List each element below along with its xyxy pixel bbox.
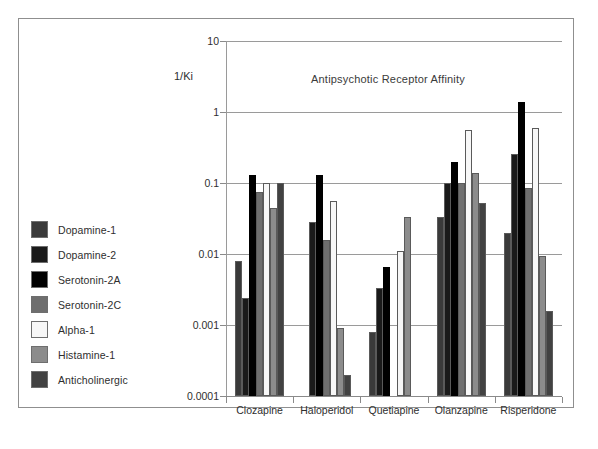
bar[interactable] (479, 203, 486, 396)
bar[interactable] (242, 298, 249, 396)
bar[interactable] (323, 240, 330, 396)
bar[interactable] (369, 332, 376, 396)
y-axis-label: 1/Ki (174, 70, 193, 82)
legend-item-label: Serotonin-2C (58, 299, 121, 311)
bar[interactable] (309, 222, 316, 396)
x-tick-mark (226, 397, 227, 403)
legend-item-label: Alpha-1 (58, 324, 95, 336)
y-tick-label: 1 (213, 106, 219, 118)
x-tick-mark (428, 397, 429, 403)
grid-and-bars: 1010.10.010.0010.0001 (226, 41, 562, 396)
bar[interactable] (383, 267, 390, 396)
legend-item: Histamine-1 (31, 342, 181, 367)
bar[interactable] (235, 261, 242, 396)
x-tick-mark (495, 397, 496, 403)
y-tick-label: 0.01 (199, 248, 219, 260)
x-tick-mark (293, 397, 294, 403)
bar[interactable] (539, 256, 546, 396)
x-category-label: Haloperidol (300, 404, 353, 416)
legend-item-label: Dopamine-2 (58, 249, 116, 261)
legend-item-label: Dopamine-1 (58, 224, 116, 236)
legend-item: Dopamine-2 (31, 242, 181, 267)
plot-area: 1/Ki Antipsychotic Receptor Affinity 101… (214, 32, 562, 403)
bar[interactable] (458, 183, 465, 396)
bar[interactable] (256, 192, 263, 396)
bar[interactable] (511, 154, 518, 396)
gridline (226, 396, 562, 397)
y-tick-label: 0.001 (193, 319, 219, 331)
legend-item: Dopamine-1 (31, 217, 181, 242)
legend-item-label: Histamine-1 (58, 349, 115, 361)
x-category-label: Risperidone (500, 404, 556, 416)
bar[interactable] (451, 162, 458, 396)
legend-swatch-icon (31, 296, 48, 313)
bar[interactable] (525, 188, 532, 396)
y-tick-label: 10 (207, 35, 219, 47)
x-category-label: Quetiapine (369, 404, 420, 416)
legend-item: Alpha-1 (31, 317, 181, 342)
bar[interactable] (532, 128, 539, 396)
bar-group (360, 41, 427, 396)
y-tick-label: 0.1 (204, 177, 219, 189)
bar[interactable] (465, 130, 472, 396)
bar-group (428, 41, 495, 396)
bar[interactable] (263, 183, 270, 396)
bar[interactable] (472, 173, 479, 396)
bar[interactable] (376, 288, 383, 396)
bar[interactable] (316, 175, 323, 396)
legend-swatch-icon (31, 371, 48, 388)
legend-swatch-icon (31, 246, 48, 263)
bar[interactable] (270, 208, 277, 396)
legend-item: Anticholinergic (31, 367, 181, 392)
bar[interactable] (518, 102, 525, 396)
bar[interactable] (404, 217, 411, 396)
figure-frame: Dopamine-1Dopamine-2Serotonin-2ASerotoni… (18, 18, 574, 408)
bar[interactable] (444, 183, 451, 396)
legend-item-label: Anticholinergic (58, 374, 128, 386)
bar[interactable] (249, 175, 256, 396)
legend-swatch-icon (31, 321, 48, 338)
bar[interactable] (277, 183, 284, 396)
bar[interactable] (397, 251, 404, 396)
bar[interactable] (504, 233, 511, 396)
legend-item-label: Serotonin-2A (58, 274, 121, 286)
bar[interactable] (337, 328, 344, 396)
bar-group (226, 41, 293, 396)
x-tick-mark (562, 397, 563, 403)
bar-group (293, 41, 360, 396)
bar[interactable] (546, 311, 553, 396)
bar[interactable] (344, 375, 351, 396)
legend-swatch-icon (31, 346, 48, 363)
legend-item: Serotonin-2A (31, 267, 181, 292)
x-category-label: Clozapine (236, 404, 283, 416)
x-tick-mark (360, 397, 361, 403)
bar[interactable] (437, 217, 444, 396)
legend-swatch-icon (31, 271, 48, 288)
chart-legend: Dopamine-1Dopamine-2Serotonin-2ASerotoni… (31, 217, 181, 392)
x-category-label: Olanzapine (435, 404, 488, 416)
bar-group (495, 41, 562, 396)
bar[interactable] (330, 201, 337, 396)
y-tick-label: 0.0001 (187, 390, 219, 402)
legend-item: Serotonin-2C (31, 292, 181, 317)
legend-swatch-icon (31, 221, 48, 238)
figure-caption (18, 424, 578, 438)
